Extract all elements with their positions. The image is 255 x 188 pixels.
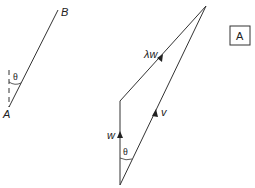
angle-theta-right: θ: [123, 146, 128, 157]
panel-label-text: A: [236, 30, 244, 42]
arrowhead-w-icon: [117, 131, 123, 138]
line-ab: [9, 10, 58, 107]
arrowhead-lambda-w-icon: [157, 54, 163, 62]
vector-w-label: w: [107, 129, 116, 141]
arrowhead-v-icon: [152, 109, 158, 117]
vector-lambda-w-line: [120, 6, 206, 101]
point-b-label: B: [61, 6, 68, 18]
vector-diagram: θ A B θ λw w v A: [0, 0, 255, 188]
angle-arc-right: [120, 158, 132, 160]
left-figure: θ A B: [2, 6, 68, 120]
angle-theta-left: θ: [13, 71, 18, 82]
panel-label-box: A: [230, 26, 250, 45]
vector-v-line: [120, 6, 206, 185]
angle-arc-left: [9, 82, 21, 84]
right-figure: θ λw w v: [107, 6, 206, 185]
vector-lambda-w-label: λw: [143, 48, 158, 60]
vector-v-label: v: [161, 106, 168, 118]
point-a-label: A: [2, 108, 10, 120]
